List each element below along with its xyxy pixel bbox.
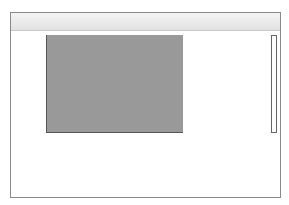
overall-proportion-bar — [271, 35, 277, 133]
panel-titlebar[interactable] — [11, 13, 280, 31]
mosaic-plot-area[interactable] — [46, 35, 183, 133]
